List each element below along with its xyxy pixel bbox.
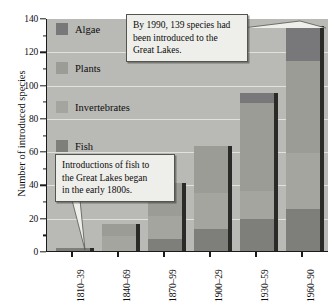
y-axis-title: Number of introduced species [16,49,27,219]
y-tick-label: 100 [24,81,38,91]
x-tick-label: 1840–69 [122,269,132,302]
callout-line-2: been introduced to the [133,32,241,45]
y-tick-major [40,218,46,219]
callout-line-2: the Great Lakes began [62,172,168,185]
legend-swatch-algae [56,23,68,35]
y-tick-label: 40 [29,180,38,190]
legend-label: Invertebrates [75,102,130,113]
x-tick-label: 1960–90 [306,269,316,302]
bar-segment-fish [194,229,228,251]
y-tick-minor [43,35,47,36]
callout-line-3: Great Lakes. [133,44,241,57]
y-tick-label: 20 [29,214,38,224]
legend-swatch-fish [56,140,68,152]
bar-shadow [182,183,186,251]
bar-segment-fish [148,239,182,251]
bar-segment-plants [240,103,274,191]
bar-1900-29[interactable] [194,146,228,251]
y-tick-minor [43,102,47,103]
bar-segment-algae [240,93,274,103]
bar-segment-fish [286,209,320,251]
y-tick-minor [43,168,47,169]
bar-segment-plants [102,224,136,236]
y-tick-minor [43,202,47,203]
legend-label: Fish [75,141,93,152]
y-axis: Number of introduced species 140 120 100… [0,0,46,308]
bar-shadow [228,146,232,251]
x-tick [301,252,303,257]
bar-shadow [274,93,278,251]
y-tick-major [40,18,46,19]
y-tick-major [40,118,46,119]
bar-1930-59[interactable] [240,93,274,251]
y-tick-major [40,251,46,252]
bar-segment-invertebrates [286,153,320,210]
legend-label: Algae [75,24,100,35]
x-tick-label: 1870–99 [168,269,178,302]
x-tick [209,252,211,257]
y-tick-label: 60 [29,147,38,157]
legend-item-algae[interactable]: Algae [56,22,100,36]
y-tick-major [40,185,46,186]
legend-swatch-invertebrates [56,101,68,113]
y-tick-label: 140 [24,14,38,24]
y-tick-major [40,52,46,53]
callout-line-1: Introductions of fish to [62,159,168,172]
bar-1840-69[interactable] [102,224,136,251]
legend-label: Plants [75,63,101,74]
x-tick [255,252,257,257]
callout-fish-introductions: Introductions of fish to the Great Lakes… [55,154,175,202]
y-tick-major [40,85,46,86]
x-tick-label: 1930–59 [260,269,270,302]
x-tick [117,252,119,257]
legend-item-plants[interactable]: Plants [56,61,101,75]
bar-segment-invertebrates [102,236,136,251]
bar-1960-90[interactable] [286,26,320,251]
x-tick-label: 1810–39 [76,269,86,302]
legend-item-invertebrates[interactable]: Invertebrates [56,100,130,114]
y-tick-minor [43,235,47,236]
callout-line-1: By 1990, 139 species had [133,19,241,32]
legend-item-fish[interactable]: Fish [56,139,93,153]
y-tick-label: 80 [29,114,38,124]
legend-swatch-plants [56,62,68,74]
bar-segment-invertebrates [240,191,274,219]
y-tick-label: 120 [24,47,38,57]
y-tick-minor [43,135,47,136]
bar-shadow [136,224,140,251]
bar-segment-plants [286,61,320,153]
bar-segment-fish [240,219,274,251]
callout-leader-line-bottom [58,198,98,254]
y-tick-label: 0 [33,247,38,257]
x-tick [163,252,165,257]
bar-segment-invertebrates [194,193,228,230]
callout-line-3: in the early 1800s. [62,184,168,197]
y-tick-major [40,151,46,152]
callout-1990-species: By 1990, 139 species had been introduced… [126,14,248,62]
bar-segment-plants [194,146,228,193]
bar-segment-invertebrates [148,216,182,239]
callout-leader-line-top [240,18,330,42]
bar-shadow [320,26,324,251]
chart-figure: Number of introduced species 140 120 100… [0,0,334,308]
x-tick-label: 1900–29 [214,269,224,302]
y-tick-minor [43,68,47,69]
